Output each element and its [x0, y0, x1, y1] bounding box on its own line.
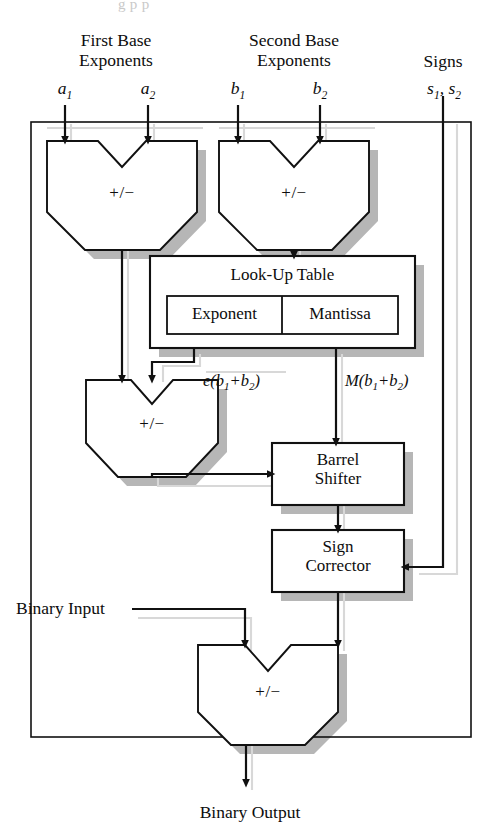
adder-first-base-label: +/− — [98, 183, 146, 202]
port-a1-sub: 1 — [67, 89, 73, 101]
second-base-exponents-label: Second Base Exponents — [218, 31, 370, 70]
port-b2-sub: 2 — [322, 89, 328, 101]
second-base-line2: Exponents — [257, 50, 331, 70]
port-a2: a2 — [131, 79, 165, 101]
port-a2-base: a — [141, 78, 150, 98]
sig-e-post: ) — [254, 371, 260, 390]
port-b2: b2 — [303, 79, 337, 101]
sig-m-mid: +b — [378, 371, 397, 390]
second-base-line1: Second Base — [249, 30, 339, 50]
first-base-line2: Exponents — [79, 50, 153, 70]
port-s1-s2: s1, s2 — [411, 79, 477, 101]
sign-corrector-line2: Corrector — [305, 556, 370, 575]
port-b1-base: b — [231, 78, 240, 98]
signs-label: Signs — [403, 52, 483, 72]
lookup-table-cell-exponent[interactable]: Exponent — [167, 304, 282, 323]
signal-label-exponent: e(b1+b2) — [203, 372, 299, 393]
port-a2-sub: 2 — [150, 89, 156, 101]
sig-e-pre: e(b — [203, 371, 224, 390]
barrel-shifter-line1: Barrel — [317, 450, 359, 469]
port-s2-sub: 2 — [455, 89, 461, 101]
barrel-shifter-label: Barrel Shifter — [272, 450, 404, 488]
signs-line1: Signs — [424, 51, 463, 71]
sig-m-pre: M(b — [345, 371, 373, 390]
sign-corrector-label: Sign Corrector — [272, 537, 404, 575]
binary-input-label: Binary Input — [16, 599, 134, 619]
port-s1-base: s — [427, 78, 434, 98]
schematic-canvas — [0, 0, 495, 836]
signal-label-mantissa: M(b1+b2) — [345, 372, 451, 393]
port-b1-sub: 1 — [240, 89, 246, 101]
block-diagram-figure: g p p First Base Exponents Second Base E… — [0, 0, 495, 836]
port-b2-base: b — [313, 78, 322, 98]
port-s2-base: , s — [440, 78, 456, 98]
port-b1: b1 — [221, 79, 255, 101]
adder-second-base-label: +/− — [270, 183, 318, 202]
first-base-exponents-label: First Base Exponents — [46, 31, 186, 70]
port-a1: a1 — [48, 79, 82, 101]
sign-corrector-line1: Sign — [322, 537, 353, 556]
lookup-table-cell-mantissa[interactable]: Mantissa — [282, 304, 398, 323]
port-a1-base: a — [58, 78, 67, 98]
first-base-line1: First Base — [81, 30, 152, 50]
sig-e-mid: +b — [230, 371, 249, 390]
sig-m-post: ) — [403, 371, 409, 390]
wire-binary-input-to-adderD — [132, 609, 245, 644]
barrel-shifter-line2: Shifter — [315, 469, 361, 488]
adder-final-binary-label: +/− — [244, 682, 292, 701]
lookup-table-title: Look-Up Table — [150, 265, 415, 284]
adder-exponent-combiner-label: +/− — [128, 414, 176, 433]
binary-output-label: Binary Output — [170, 803, 330, 823]
cropped-header-fragment: g p p — [118, 0, 150, 13]
